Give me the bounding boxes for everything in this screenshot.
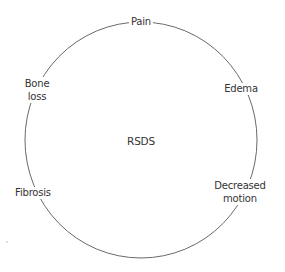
center-label-rsds: RSDS — [125, 135, 157, 147]
center-label-text: RSDS — [127, 135, 155, 147]
node-bone-loss-line1: Bone — [25, 77, 50, 90]
node-pain-label: Pain — [131, 16, 151, 27]
node-decreased-motion-line2: motion — [214, 192, 265, 205]
node-decreased-motion: Decreased motion — [212, 179, 267, 205]
node-edema: Edema — [222, 83, 260, 95]
node-fibrosis-label: Fibrosis — [15, 187, 51, 198]
stray-dot — [6, 241, 8, 243]
node-decreased-motion-line1: Decreased — [214, 179, 265, 192]
node-bone-loss: Bone loss — [23, 77, 52, 103]
node-bone-loss-line2: loss — [25, 90, 50, 103]
node-pain: Pain — [129, 16, 153, 28]
node-edema-label: Edema — [224, 83, 258, 94]
node-fibrosis: Fibrosis — [13, 187, 53, 199]
